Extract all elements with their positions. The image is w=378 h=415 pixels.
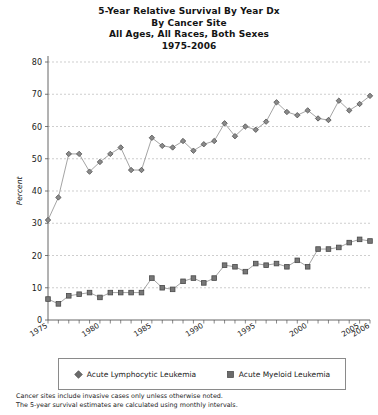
data-point-diamond	[76, 151, 81, 156]
footnote-2: The 5-year survival estimates are calcul…	[16, 401, 366, 410]
y-axis-tick-label: 10	[32, 284, 42, 293]
data-point-square	[357, 237, 362, 242]
data-point-square	[326, 247, 331, 252]
data-point-square	[170, 287, 175, 292]
square-marker-icon	[226, 370, 235, 379]
data-point-diamond	[326, 117, 331, 122]
x-axis-tick-label: 1985	[132, 321, 153, 339]
data-point-diamond	[139, 167, 144, 172]
data-point-square	[233, 264, 238, 269]
data-point-diamond	[66, 151, 71, 156]
data-point-square	[46, 297, 51, 302]
data-point-square	[87, 290, 92, 295]
data-point-square	[202, 281, 207, 286]
data-point-square	[129, 290, 134, 295]
data-point-square	[368, 239, 373, 244]
plot-area: 0102030405060708019751980198519901995200…	[0, 0, 378, 340]
data-point-square	[108, 290, 113, 295]
data-point-square	[56, 302, 61, 307]
data-point-square	[212, 276, 217, 281]
series-line-aml	[48, 239, 370, 304]
y-axis-tick-label: 40	[32, 187, 42, 196]
data-point-square	[150, 276, 155, 281]
data-point-square	[347, 240, 352, 245]
data-point-square	[181, 279, 186, 284]
y-axis-tick-label: 50	[32, 155, 42, 164]
data-point-square	[98, 295, 103, 300]
x-axis-tick-label: 1980	[80, 321, 101, 339]
x-axis-tick-label: 1995	[236, 321, 257, 339]
data-point-diamond	[56, 195, 61, 200]
data-point-square	[77, 292, 82, 297]
x-axis-tick-label: 1990	[184, 321, 205, 339]
data-point-square	[316, 247, 321, 252]
y-axis-tick-label: 80	[32, 58, 42, 67]
x-axis-tick-label: 2000	[288, 321, 309, 339]
data-point-square	[139, 290, 144, 295]
data-point-square	[295, 258, 300, 263]
data-point-square	[191, 276, 196, 281]
data-point-square	[305, 264, 310, 269]
chart-legend: Acute Lymphocytic Leukemia Acute Myeloid…	[58, 358, 346, 390]
data-point-diamond	[211, 138, 216, 143]
legend-item-all: Acute Lymphocytic Leukemia	[74, 370, 196, 379]
data-point-square	[160, 285, 165, 290]
data-point-square	[274, 261, 279, 266]
y-axis-tick-label: 60	[32, 123, 42, 132]
diamond-marker-icon	[74, 370, 83, 379]
legend-item-aml: Acute Myeloid Leukemia	[226, 370, 330, 379]
data-point-diamond	[201, 142, 206, 147]
x-axis-tick-label: 1975	[28, 321, 49, 339]
legend-label-aml: Acute Myeloid Leukemia	[239, 370, 330, 379]
survival-chart: 5-Year Relative Survival By Year Dx By C…	[0, 0, 378, 415]
footnote-1: Cancer sites include invasive cases only…	[16, 392, 366, 401]
data-point-square	[243, 269, 248, 274]
plot-svg: 0102030405060708019751980198519901995200…	[0, 0, 378, 348]
legend-label-all: Acute Lymphocytic Leukemia	[87, 370, 196, 379]
y-axis-tick-label: 30	[32, 219, 42, 228]
data-point-square	[118, 290, 123, 295]
y-axis-title: Percent	[15, 176, 24, 206]
chart-footnotes: Cancer sites include invasive cases only…	[16, 392, 366, 410]
data-point-diamond	[45, 217, 50, 222]
data-point-square	[66, 294, 71, 299]
data-point-diamond	[128, 167, 133, 172]
data-point-square	[253, 261, 258, 266]
data-point-diamond	[295, 113, 300, 118]
data-point-diamond	[118, 145, 123, 150]
data-point-square	[285, 264, 290, 269]
data-point-diamond	[170, 145, 175, 150]
y-axis-tick-label: 20	[32, 252, 42, 261]
y-axis-tick-label: 70	[32, 90, 42, 99]
data-point-square	[222, 263, 227, 268]
series-line-all	[48, 96, 370, 220]
data-point-square	[264, 263, 269, 268]
data-point-square	[337, 245, 342, 250]
